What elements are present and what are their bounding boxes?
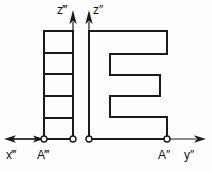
front-view-outline — [89, 31, 167, 139]
front-view-e-shape — [89, 31, 167, 139]
projection-drawing — [0, 0, 212, 172]
z-second-arrowhead-icon — [85, 10, 92, 24]
side-view-outline — [44, 31, 73, 139]
label-a-second: A″ — [158, 148, 170, 162]
label-x-third: x‴ — [6, 148, 16, 162]
node-front-view-origin-right — [164, 136, 170, 142]
label-z-third: z‴ — [57, 3, 67, 17]
node-front-view-origin-left — [86, 136, 92, 142]
node-left-view-origin-left — [41, 136, 47, 142]
side-view-ladder — [44, 31, 73, 139]
label-y-second: y″ — [184, 148, 194, 162]
node-left-view-origin-right — [70, 136, 76, 142]
label-a-third: A‴ — [37, 148, 49, 162]
label-z-second: z″ — [93, 3, 103, 17]
z-third-arrowhead-icon — [69, 10, 76, 24]
technical-drawing-page: z‴ z″ x‴ A‴ A″ y″ — [0, 0, 212, 172]
